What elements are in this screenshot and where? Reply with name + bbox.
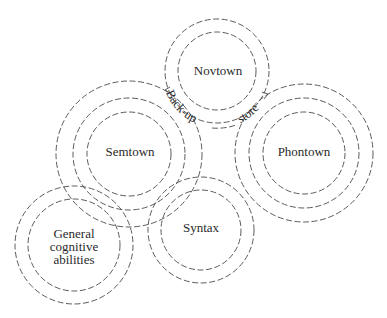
backup-label: Back-up: [163, 88, 199, 126]
syntax-label: Syntax: [183, 220, 220, 235]
phontown-label: Phontown: [278, 144, 331, 159]
semtown-label: Semtown: [105, 144, 155, 159]
syntax-node: Syntax: [148, 177, 254, 283]
general-label-line-3: abilities: [53, 252, 94, 267]
novtown-label: Novtown: [194, 63, 243, 78]
diagram-canvas: Novtown Semtown Phontown General cogniti…: [0, 0, 387, 318]
store-label: store: [235, 101, 262, 126]
backup-store-connector: Back-up store: [163, 87, 268, 128]
connector-dashed-arc: [212, 125, 236, 128]
phontown-node: Phontown: [235, 84, 373, 222]
general-cognitive-abilities-node: General cognitive abilities: [15, 186, 133, 304]
